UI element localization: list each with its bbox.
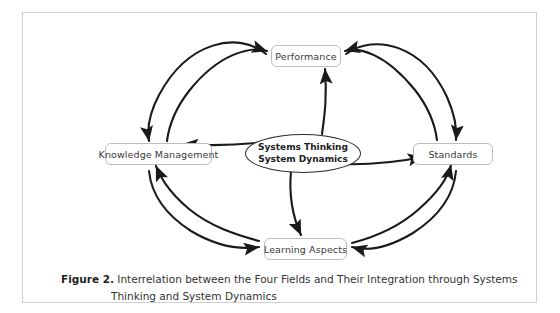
node-performance[interactable]: Performance bbox=[271, 45, 341, 67]
node-standards[interactable]: Standards bbox=[413, 143, 493, 165]
edge-performance-to-knowledge-management bbox=[148, 42, 266, 141]
node-learning-aspects-label: Learning Aspects bbox=[264, 244, 347, 255]
edge-performance-to-standards bbox=[346, 44, 456, 140]
edge-standards-to-learning-aspects bbox=[352, 171, 456, 249]
core-label-line-2: System Dynamics bbox=[258, 154, 348, 166]
node-performance-label: Performance bbox=[275, 51, 336, 62]
node-core-systems-thinking[interactable]: Systems Thinking System Dynamics bbox=[245, 134, 361, 173]
node-knowledge-management-label: Knowledge Management bbox=[99, 149, 219, 160]
node-knowledge-management[interactable]: Knowledge Management bbox=[105, 143, 212, 165]
caption-figure-text: Interrelation between the Four Fields an… bbox=[117, 273, 517, 285]
edge-center-to-learning-aspects bbox=[290, 171, 301, 235]
diagram-canvas: Performance Knowledge Management Standar… bbox=[23, 13, 560, 273]
core-label-line-1: Systems Thinking bbox=[258, 142, 348, 154]
node-learning-aspects[interactable]: Learning Aspects bbox=[264, 238, 347, 260]
caption-figure-label: Figure 2. bbox=[61, 273, 114, 285]
caption-line-2: Thinking and System Dynamics bbox=[111, 288, 543, 305]
edge-learning-aspects-to-standards bbox=[352, 165, 451, 243]
figure-frame: Performance Knowledge Management Standar… bbox=[22, 12, 537, 303]
caption-line-1: Figure 2. Interrelation between the Four… bbox=[61, 271, 543, 288]
node-standards-label: Standards bbox=[428, 149, 477, 160]
figure-page: Performance Knowledge Management Standar… bbox=[0, 0, 560, 313]
edge-learning-aspects-to-knowledge-management bbox=[156, 166, 259, 241]
figure-caption: Figure 2. Interrelation between the Four… bbox=[61, 271, 543, 305]
edge-center-to-performance bbox=[322, 69, 326, 134]
